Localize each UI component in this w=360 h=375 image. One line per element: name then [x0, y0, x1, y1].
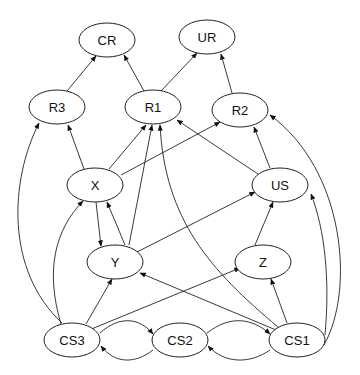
- node-r3: R3: [29, 90, 85, 124]
- edge-us-to-r1: [177, 120, 258, 174]
- node-label: R1: [145, 100, 162, 115]
- node-x: X: [67, 168, 123, 202]
- edge-cs3-to-r3: [18, 123, 62, 323]
- edge-cs1-to-cs2: [208, 346, 270, 360]
- edge-us-to-r2: [254, 127, 270, 168]
- edge-cs1-to-z: [271, 279, 287, 323]
- edge-x-to-r1: [109, 125, 146, 169]
- node-label: Y: [111, 255, 120, 270]
- node-cs2: CS2: [152, 323, 208, 357]
- edge-x-to-y: [96, 202, 101, 246]
- edge-x-to-r2: [121, 122, 220, 175]
- node-label: UR: [198, 30, 217, 45]
- node-us: US: [252, 168, 308, 202]
- edge-cs2-to-cs1: [207, 321, 270, 334]
- edge-r1-to-ur: [161, 53, 197, 91]
- node-label: CR: [98, 33, 117, 48]
- node-label: CS2: [167, 333, 192, 348]
- edge-r1-to-cr: [124, 55, 144, 91]
- edge-cs2-to-cs3: [101, 346, 153, 360]
- node-label: CS1: [284, 333, 309, 348]
- edge-y-to-r1: [129, 125, 152, 245]
- node-cs1: CS1: [269, 323, 325, 357]
- edge-z-to-us: [255, 202, 273, 245]
- edge-r3-to-cr: [67, 56, 96, 91]
- node-cr: CR: [79, 23, 135, 57]
- edge-y-to-us: [137, 192, 255, 252]
- edge-cs1-to-r2: [270, 115, 340, 345]
- node-z: Z: [235, 245, 291, 279]
- node-label: Z: [259, 255, 267, 270]
- edge-x-to-r3: [68, 125, 84, 169]
- edge-cs3-to-x: [53, 201, 83, 324]
- node-label: R2: [232, 103, 249, 118]
- node-y: Y: [87, 245, 143, 279]
- node-r2: R2: [212, 93, 268, 127]
- node-ur: UR: [179, 20, 235, 54]
- node-label: US: [271, 178, 289, 193]
- node-cs3: CS3: [44, 323, 100, 357]
- edge-r2-to-ur: [221, 54, 232, 93]
- node-label: R3: [49, 100, 66, 115]
- causal-graph-diagram: CR UR R3 R1 R2 X US Y: [0, 0, 360, 375]
- node-label: CS3: [59, 333, 84, 348]
- node-label: X: [91, 178, 100, 193]
- node-r1: R1: [125, 90, 181, 124]
- edge-cs3-to-y: [86, 279, 112, 324]
- edge-cs1-to-us: [311, 194, 327, 335]
- edge-cs1-to-r1: [160, 125, 278, 327]
- edge-y-to-x: [107, 202, 125, 245]
